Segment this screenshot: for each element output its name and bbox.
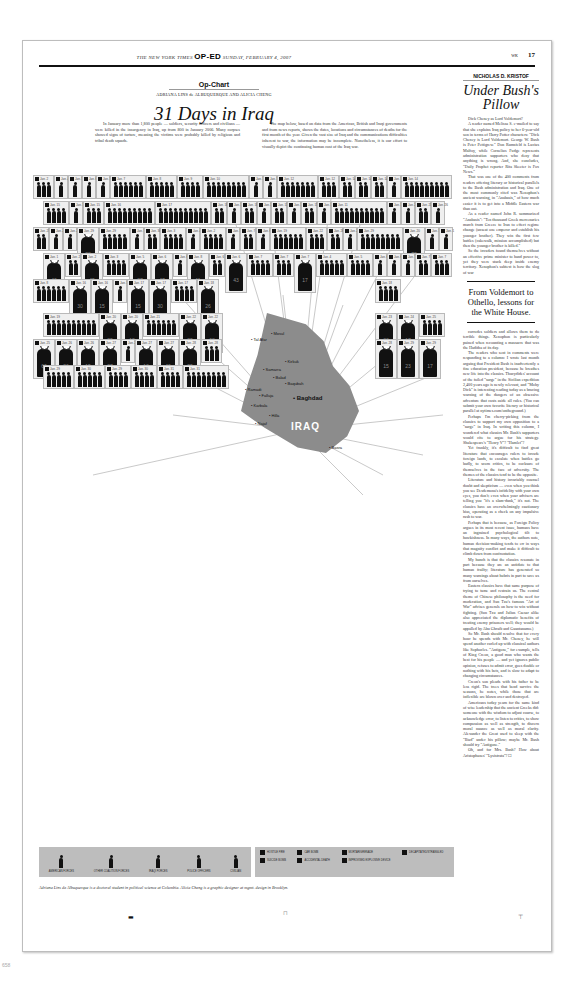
casualty-cell: Jan. 1	[439, 227, 453, 251]
cause-icon	[349, 255, 353, 259]
person-figure-icon	[444, 237, 448, 249]
casualty-cell: Jan. 11	[331, 201, 387, 225]
person-figure-icon	[167, 323, 171, 335]
person-figure-icon	[57, 375, 61, 387]
person-figure-icon	[350, 211, 354, 223]
date-label: Jan. 8	[153, 177, 161, 181]
cause-icon	[85, 203, 89, 207]
cell-date: Jan. 22	[203, 315, 218, 319]
person-figure-icon	[69, 263, 73, 275]
column-paragraph: Perhaps that is because, as Foreign Poli…	[463, 520, 539, 557]
person-figure-icon	[232, 185, 236, 197]
casualty-cell: Jan. 30	[131, 365, 157, 389]
column-paragraph: That was one of the 400 comments from re…	[463, 174, 539, 211]
person-figure-icon	[196, 185, 200, 197]
date-label: Jan. 27	[106, 341, 116, 345]
person-figure-icon	[244, 237, 248, 249]
column-author: NICHOLAS D. KRISTOF	[463, 73, 539, 81]
person-figure-icon	[311, 185, 315, 197]
casualty-cell: Jan. 643	[225, 253, 247, 293]
person-figure-icon	[179, 211, 183, 223]
cause-icon	[189, 255, 193, 259]
casualty-cell: Jan. 7	[130, 227, 144, 251]
casualty-cell: Jan. 29	[105, 365, 131, 389]
person-figure-icon	[118, 289, 122, 301]
column-paragraph: Perhaps I'm cherry-picking from the clas…	[463, 414, 539, 446]
person-figure-icon	[62, 375, 66, 387]
person-figure-icon	[82, 323, 86, 335]
cell-date: Jan. 8	[35, 281, 48, 285]
cause-icon	[243, 203, 247, 207]
cell-date: Jan. 14	[373, 177, 388, 181]
page-marker: WK17	[511, 51, 535, 59]
column-body-top: Dick Cheney as Lord Voldemort?A reader n…	[463, 116, 539, 275]
cell-date: Jan. 3	[105, 255, 118, 259]
cell-date: Jan. 18	[377, 281, 392, 285]
person-figure-icon	[251, 263, 255, 275]
person-figure-icon	[299, 237, 303, 249]
cell-date: Jan. 7	[275, 255, 288, 259]
casualty-cell: Jan. 7	[110, 175, 146, 199]
person-figure-icon	[174, 211, 178, 223]
casualty-cell: Jan. 11	[249, 175, 263, 199]
person-figure-icon	[410, 185, 414, 197]
casualty-cell: Jan. 2917	[419, 339, 441, 379]
cell-date: Jan. 21	[145, 315, 160, 319]
date-label: Jan. 1	[446, 229, 454, 233]
date-label: Jan. 16	[76, 281, 86, 285]
date-label: Jan. 21	[150, 315, 160, 319]
cause-icon	[375, 255, 379, 259]
person-figure-icon	[335, 211, 339, 223]
person-figure-icon	[150, 185, 154, 197]
cause-icon	[308, 229, 312, 233]
person-figure-icon	[114, 185, 118, 197]
cause-icon	[260, 850, 265, 855]
cause-icon	[342, 850, 347, 855]
kicker: Op-Chart	[169, 81, 259, 90]
person-figure-icon	[227, 185, 231, 197]
person-figure-icon	[92, 211, 96, 223]
cause-icon	[427, 229, 431, 233]
cause-icon	[359, 229, 363, 233]
person-figure-icon	[113, 237, 117, 249]
cause-icon	[106, 203, 110, 207]
cell-date: Jan. 25	[421, 315, 436, 319]
person-figure-icon	[335, 263, 339, 275]
person-figure-icon	[107, 263, 111, 275]
cause-icon	[101, 341, 105, 345]
cause-icon	[71, 281, 75, 285]
cause-icon	[157, 203, 161, 207]
cell-date: Jan. 17	[157, 203, 172, 207]
person-figure-icon	[380, 185, 384, 197]
cause-icon	[45, 255, 49, 259]
date-label: Jan. 19	[277, 229, 287, 233]
person-figure-icon	[37, 237, 41, 249]
person-figure-icon	[199, 211, 203, 223]
date-label: Jan. 28	[186, 341, 196, 345]
person-figure-icon	[47, 185, 51, 197]
person-figure-icon	[74, 211, 78, 223]
cell-date: Jan. 6	[153, 255, 166, 259]
person-figure-icon	[356, 263, 360, 275]
cell-date: Jan. 14	[357, 177, 372, 181]
casualty-cell: Jan. 22	[306, 227, 327, 251]
casualty-cell: Jan. 7	[431, 253, 452, 277]
column-paragraph: Literature and history invariably counse…	[463, 477, 539, 519]
person-figure-icon	[419, 263, 423, 275]
person-figure-icon	[150, 375, 154, 387]
person-figure-icon	[205, 349, 209, 361]
person-figure-icon	[119, 375, 123, 387]
date-label: Jan. 29	[50, 367, 60, 371]
person-figure-icon	[124, 375, 128, 387]
person-figure-icon	[322, 185, 326, 197]
masthead-line: THE NEW YORK TIMES OP-ED SUNDAY, FEBRUAR…	[39, 52, 389, 61]
cause-icon	[421, 341, 425, 345]
casualty-cell: Jan. 3	[103, 253, 129, 277]
date-label: Jan. 2	[40, 177, 48, 181]
person-figure-icon	[179, 237, 183, 249]
date-label: Jan. 11	[338, 203, 348, 207]
casualty-cell: Jan. 7	[415, 253, 431, 277]
person-figure-icon	[365, 211, 369, 223]
person-figure-icon	[366, 263, 370, 275]
cause-icon	[145, 315, 149, 319]
